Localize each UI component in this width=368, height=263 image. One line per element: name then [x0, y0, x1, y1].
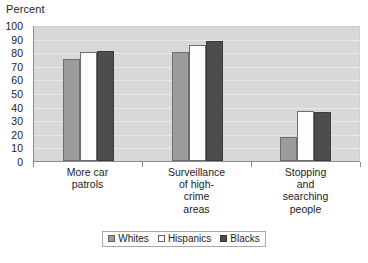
bar — [97, 51, 114, 161]
y-axis-tick-label: 70 — [0, 62, 23, 72]
y-axis-tick-label: 50 — [0, 89, 23, 99]
bar — [206, 41, 223, 161]
x-axis-separator — [360, 162, 361, 167]
bar-groups — [34, 26, 360, 161]
bar-chart: Percent 1009080706050403020100 More carp… — [0, 0, 368, 263]
legend-swatch-icon — [108, 235, 115, 242]
legend-label: Hispanics — [168, 233, 211, 244]
y-axis-tick-label: 30 — [0, 116, 23, 126]
legend-box: WhitesHispanicsBlacks — [102, 231, 265, 247]
legend-item[interactable]: Hispanics — [158, 233, 211, 244]
y-axis-title: Percent — [6, 3, 45, 15]
category-label-line: areas — [183, 203, 209, 215]
category-label-line: Surveillance — [168, 166, 225, 178]
bar-group — [34, 26, 143, 161]
plot-wrapper: 1009080706050403020100 — [33, 26, 360, 162]
y-axis-tick-label: 10 — [0, 143, 23, 153]
x-axis-category-labels: More carpatrolsSurveillanceof high-crime… — [33, 166, 360, 215]
bar — [280, 137, 297, 161]
legend: WhitesHispanicsBlacks — [0, 231, 368, 247]
category-label-line: crime — [184, 190, 210, 202]
legend-item[interactable]: Blacks — [220, 233, 259, 244]
bar — [189, 45, 206, 161]
legend-swatch-icon — [158, 235, 165, 242]
bar — [63, 59, 80, 161]
y-axis-tick-label: 20 — [0, 130, 23, 140]
bar-group — [143, 26, 252, 161]
category-label-line: people — [290, 203, 322, 215]
category-label-line: of high- — [179, 178, 214, 190]
category-label: More carpatrols — [33, 166, 142, 215]
category-label: Stoppingandsearchingpeople — [251, 166, 360, 215]
category-label-line: patrols — [72, 178, 104, 190]
category-label-line: searching — [283, 190, 329, 202]
bar — [297, 111, 314, 161]
bar-group — [251, 26, 360, 161]
y-axis-tick-label: 0 — [0, 157, 23, 167]
bar — [80, 52, 97, 161]
bar — [172, 52, 189, 161]
category-label-line: and — [297, 178, 315, 190]
y-axis-tick-label: 40 — [0, 103, 23, 113]
y-axis-tick-label: 100 — [0, 21, 23, 31]
category-label: Surveillanceof high-crimeareas — [142, 166, 251, 215]
legend-item[interactable]: Whites — [108, 233, 149, 244]
plot-area — [33, 26, 360, 162]
legend-swatch-icon — [220, 235, 227, 242]
bar — [314, 112, 331, 161]
category-label-line: Stopping — [285, 166, 326, 178]
category-label-line: More car — [67, 166, 108, 178]
y-axis-tick-label: 80 — [0, 48, 23, 58]
legend-label: Blacks — [230, 233, 259, 244]
legend-label: Whites — [118, 233, 149, 244]
y-axis-tick-label: 60 — [0, 75, 23, 85]
y-axis-tick-label: 90 — [0, 35, 23, 45]
